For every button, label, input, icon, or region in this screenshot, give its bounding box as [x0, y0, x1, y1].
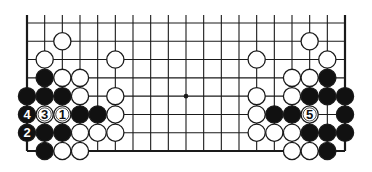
black-stone-move-2: 2 [18, 124, 35, 141]
black-stone [36, 142, 53, 159]
white-stone-move-1: 1 [54, 106, 71, 123]
white-stone [71, 88, 88, 105]
white-stone [301, 142, 318, 159]
white-stone [319, 51, 336, 68]
black-stone [71, 106, 88, 123]
black-stone [89, 106, 106, 123]
white-stone [54, 142, 71, 159]
move-number-label: 2 [23, 125, 30, 140]
white-stone [283, 88, 300, 105]
black-stone [319, 69, 336, 86]
white-stone [71, 69, 88, 86]
black-stone-move-4: 4 [18, 106, 35, 123]
white-stone [248, 51, 265, 68]
white-stone-move-5: 5 [301, 106, 318, 123]
black-stone [319, 142, 336, 159]
black-stone [36, 69, 53, 86]
white-stone [248, 124, 265, 141]
black-stone [319, 88, 336, 105]
white-stone [283, 124, 300, 141]
move-number-label: 3 [41, 107, 48, 122]
black-stone [36, 124, 53, 141]
white-stone [248, 88, 265, 105]
white-stone [248, 106, 265, 123]
black-stone [336, 88, 353, 105]
white-stone [107, 51, 124, 68]
white-stone [107, 106, 124, 123]
white-stone [283, 142, 300, 159]
black-stone [301, 124, 318, 141]
white-stone [54, 69, 71, 86]
black-stone [301, 88, 318, 105]
white-stone [301, 69, 318, 86]
black-stone [18, 88, 35, 105]
black-stone [336, 106, 353, 123]
white-stone [107, 124, 124, 141]
move-number-label: 4 [23, 107, 31, 122]
black-stone [36, 88, 53, 105]
white-stone [301, 33, 318, 50]
black-stone [54, 124, 71, 141]
white-stone [266, 124, 283, 141]
white-stone [54, 33, 71, 50]
black-stone [266, 106, 283, 123]
white-stone [89, 124, 106, 141]
black-stone [336, 124, 353, 141]
white-stone [36, 51, 53, 68]
move-number-label: 5 [306, 107, 313, 122]
black-stone [54, 88, 71, 105]
go-board-diagram: 43125 [0, 0, 372, 172]
white-stone [107, 88, 124, 105]
hoshi-point [184, 94, 189, 99]
black-stone [283, 106, 300, 123]
white-stone [71, 124, 88, 141]
white-stone [283, 69, 300, 86]
white-stone [71, 142, 88, 159]
white-stone-move-3: 3 [36, 106, 53, 123]
star-points [184, 94, 189, 99]
move-number-label: 1 [59, 107, 66, 122]
black-stone [319, 124, 336, 141]
